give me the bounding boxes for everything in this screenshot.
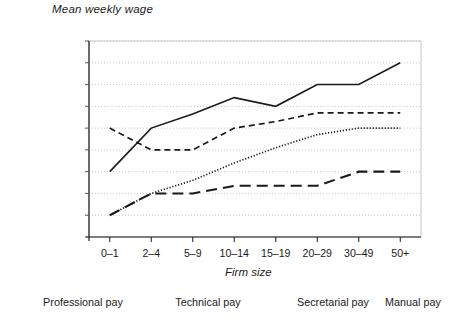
x-axis-tick-label: 50+: [370, 248, 430, 259]
legend-item: Manual pay: [372, 283, 454, 315]
legend-label: Professional pay: [8, 296, 158, 308]
chart-legend: Professional payTechnical paySecretarial…: [0, 283, 454, 317]
legend-item: Professional pay: [8, 283, 158, 315]
legend-item: Technical pay: [138, 283, 278, 315]
legend-label: Manual pay: [372, 296, 454, 308]
chart-figure: Mean weekly wage less than £50£50–74£75–…: [0, 0, 454, 322]
x-axis-title: Firm size: [225, 266, 272, 278]
legend-label: Technical pay: [138, 296, 278, 308]
